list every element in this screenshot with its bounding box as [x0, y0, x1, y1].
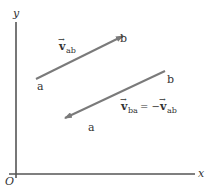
vector-ab-label: v → ab	[58, 35, 76, 55]
diagram-svg: y x O a b v → ab b a v → ba = − v → ab	[0, 0, 212, 194]
vector-diagram: y x O a b v → ab b a v → ba = − v → ab	[0, 0, 212, 194]
vector-ab-tail-label: a	[37, 80, 44, 93]
origin-label: O	[5, 175, 14, 188]
svg-text:ba: ba	[128, 106, 138, 115]
svg-text:= −: = −	[140, 101, 160, 112]
y-axis-label: y	[12, 7, 20, 20]
svg-text:ab: ab	[66, 46, 76, 55]
vector-ba-tail-label: b	[167, 73, 174, 86]
vector-ba-equation: v → ba = − v → ab	[120, 95, 177, 115]
vector-ba-head-label: a	[88, 121, 95, 134]
x-axis-label: x	[198, 167, 205, 180]
vector-ab-head-label: b	[120, 32, 127, 45]
svg-text:ab: ab	[167, 106, 177, 115]
svg-text:→: →	[120, 95, 127, 104]
vector-ab-arrow	[36, 36, 123, 79]
svg-text:→: →	[58, 35, 65, 44]
svg-text:→: →	[159, 95, 166, 104]
